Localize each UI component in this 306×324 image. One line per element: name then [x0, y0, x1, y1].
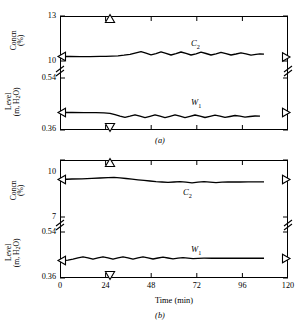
right-triangle-icon-b-c2 — [283, 175, 291, 184]
right-triangle-icon-a-w1 — [283, 108, 291, 117]
figure-container: 13 10 0.54 0.36 Concn (%) Level (m, H2O)… — [0, 0, 306, 324]
curve-a-w1 — [62, 113, 260, 118]
left-triangle-icon-b-c2 — [58, 175, 66, 184]
marker-group-b — [58, 159, 290, 280]
up-triangle-icon-b — [105, 159, 114, 167]
marker-group-a — [58, 15, 290, 132]
left-triangle-icon-b-w1 — [58, 256, 66, 265]
up-triangle-icon-a — [105, 15, 114, 23]
right-triangle-icon-a-c2 — [283, 53, 291, 62]
curve-b-w1 — [62, 257, 264, 261]
down-triangle-icon-a — [105, 124, 114, 132]
left-triangle-icon-a-c2 — [58, 52, 66, 61]
curve-a-c2 — [62, 52, 264, 57]
panel-b: 10 7 0.54 0.36 Concn (%) Level (m, H2O) … — [0, 156, 306, 324]
panel-a: 13 10 0.54 0.36 Concn (%) Level (m, H2O)… — [0, 0, 306, 156]
panel-a-graphics — [0, 0, 306, 156]
left-triangle-icon-a-w1 — [58, 108, 66, 117]
panel-b-graphics — [0, 156, 306, 324]
right-triangle-icon-b-w1 — [283, 254, 291, 263]
curve-b-c2 — [62, 177, 264, 182]
down-triangle-icon-b — [105, 272, 114, 280]
